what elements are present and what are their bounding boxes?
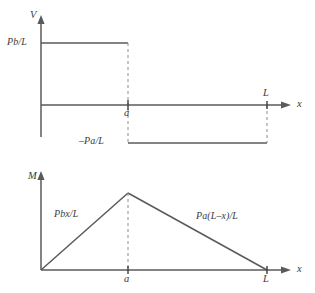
moment-tick-a-label: a (124, 274, 129, 285)
moment-left-segment (41, 193, 128, 270)
shear-vertical-axis-label: V (30, 10, 37, 21)
diagram-canvas (0, 0, 315, 293)
shear-negative-value-label: –Pa/L (79, 136, 104, 146)
beam-diagram-figure: V Pb/L –Pa/L a L x M Pbx/L Pa(L–x)/L a L… (0, 0, 315, 293)
moment-diagram-group (37, 171, 291, 274)
shear-positive-value-label: Pb/L (7, 37, 27, 47)
shear-vertical-axis-arrowhead (37, 15, 44, 24)
moment-horizontal-axis-arrowhead (281, 266, 291, 273)
moment-tick-L-label: L (263, 274, 269, 285)
shear-tick-a-label: a (124, 108, 129, 119)
moment-horizontal-axis-label: x (297, 264, 302, 275)
moment-right-segment (128, 193, 267, 270)
moment-right-segment-label: Pa(L–x)/L (196, 211, 238, 221)
moment-vertical-axis-label: M (28, 171, 37, 182)
moment-vertical-axis-arrowhead (37, 171, 44, 180)
moment-left-segment-label: Pbx/L (54, 209, 78, 219)
shear-horizontal-axis-label: x (297, 99, 302, 110)
shear-horizontal-axis-arrowhead (281, 101, 291, 108)
shear-tick-L-label: L (263, 88, 269, 99)
shear-diagram-group (37, 15, 291, 143)
